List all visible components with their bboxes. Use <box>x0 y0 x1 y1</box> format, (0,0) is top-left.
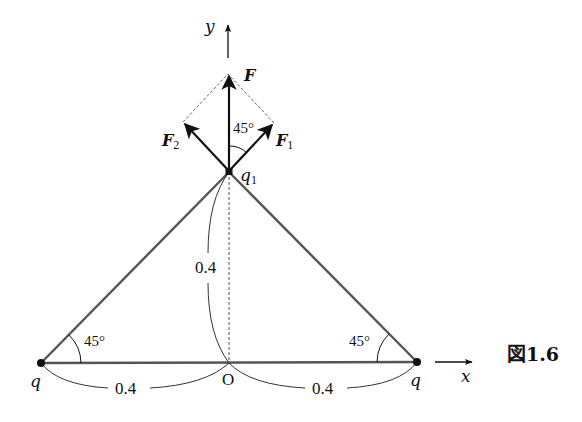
distance-arc-right-a <box>229 363 305 388</box>
charge-left-label: q <box>30 373 41 390</box>
force-F2-label: F2 <box>162 133 179 151</box>
distance-arc-left-b <box>150 363 229 388</box>
x-axis-label: x <box>461 368 471 385</box>
angle-arc-top <box>229 146 247 153</box>
charge-left-dot <box>37 359 45 367</box>
angle-label-top: 45° <box>233 121 254 136</box>
figure-1-6: y x O F F2 F1 45° 45° 45° q q q1 0.4 0.4… <box>0 0 582 422</box>
charge-q1-label: q1 <box>240 167 257 186</box>
distance-arc-vertical-lower <box>208 283 229 363</box>
force-F-label: F <box>244 68 255 84</box>
distance-arc-right-b <box>347 362 417 388</box>
angle-arc-right <box>377 334 389 362</box>
y-axis-label: y <box>205 18 215 35</box>
distance-label-vertical: 0.4 <box>195 259 216 276</box>
distance-label-right: 0.4 <box>312 380 333 397</box>
diagram-canvas <box>0 0 582 422</box>
distance-label-left: 0.4 <box>115 380 136 397</box>
force-F1-label: F1 <box>276 133 293 151</box>
angle-arc-left <box>69 335 81 363</box>
angle-label-left: 45° <box>84 334 105 349</box>
charge-right-label: q <box>410 372 421 389</box>
charge-right-dot <box>413 358 421 366</box>
origin-label: O <box>222 371 234 388</box>
angle-label-right: 45° <box>349 334 370 349</box>
charge-q1-dot <box>226 168 233 175</box>
force-F2-arrow <box>185 124 229 171</box>
right-rod <box>229 172 417 362</box>
distance-arc-left-a <box>41 363 108 388</box>
figure-caption: 図1.6 <box>507 345 559 364</box>
